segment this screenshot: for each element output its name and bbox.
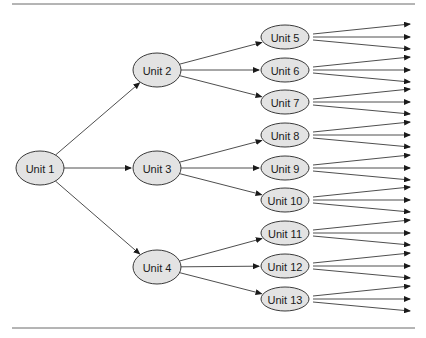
fanout-arrow-u13-0 bbox=[313, 286, 410, 296]
nodes-layer: Unit 1Unit 2Unit 3Unit 4Unit 5Unit 6Unit… bbox=[16, 25, 309, 311]
node-u1: Unit 1 bbox=[16, 151, 64, 185]
node-label: Unit 9 bbox=[271, 163, 300, 175]
fanout-arrows-layer bbox=[313, 24, 410, 311]
node-label: Unit 5 bbox=[271, 32, 300, 44]
edge-u1-u2 bbox=[55, 83, 139, 155]
edge-u3-u10 bbox=[180, 174, 262, 195]
node-u8: Unit 8 bbox=[261, 123, 309, 147]
node-label: Unit 10 bbox=[268, 195, 303, 207]
node-u11: Unit 11 bbox=[261, 221, 309, 245]
node-label: Unit 2 bbox=[143, 65, 172, 77]
edge-u2-u7 bbox=[180, 76, 262, 97]
fanout-arrow-u5-2 bbox=[313, 40, 410, 49]
fanout-arrow-u10-2 bbox=[313, 203, 410, 212]
node-label: Unit 8 bbox=[271, 130, 300, 142]
fanout-arrow-u11-0 bbox=[313, 220, 410, 230]
node-u3: Unit 3 bbox=[133, 151, 181, 185]
fanout-arrow-u13-2 bbox=[313, 302, 410, 311]
fanout-arrow-u7-2 bbox=[313, 105, 410, 114]
node-label: Unit 13 bbox=[268, 294, 303, 306]
fanout-arrow-u8-0 bbox=[313, 122, 410, 132]
fanout-arrow-u9-0 bbox=[313, 155, 410, 165]
node-u10: Unit 10 bbox=[261, 188, 309, 212]
node-u4: Unit 4 bbox=[133, 250, 181, 284]
edge-u4-u11 bbox=[179, 239, 261, 261]
node-u2: Unit 2 bbox=[133, 53, 181, 87]
edge-u1-u4 bbox=[55, 181, 139, 254]
fanout-arrow-u8-2 bbox=[313, 138, 410, 147]
edge-u2-u5 bbox=[180, 42, 262, 64]
node-label: Unit 4 bbox=[143, 262, 172, 274]
fanout-arrow-u12-0 bbox=[313, 253, 410, 263]
node-label: Unit 1 bbox=[26, 163, 55, 175]
node-u7: Unit 7 bbox=[261, 90, 309, 114]
node-u13: Unit 13 bbox=[261, 287, 309, 311]
node-label: Unit 6 bbox=[271, 65, 300, 77]
fanout-arrow-u9-2 bbox=[313, 171, 410, 180]
fanout-arrow-u7-0 bbox=[313, 89, 410, 99]
edge-u3-u8 bbox=[180, 140, 262, 162]
fanout-arrow-u5-0 bbox=[313, 24, 410, 34]
node-label: Unit 3 bbox=[143, 163, 172, 175]
node-label: Unit 7 bbox=[271, 97, 300, 109]
fanout-arrow-u11-2 bbox=[313, 236, 410, 245]
node-u6: Unit 6 bbox=[261, 58, 309, 82]
fanout-arrow-u12-2 bbox=[313, 269, 410, 278]
node-label: Unit 12 bbox=[268, 261, 303, 273]
node-u5: Unit 5 bbox=[261, 25, 309, 49]
edge-u4-u13 bbox=[180, 273, 262, 294]
edge-u4-u12 bbox=[181, 266, 259, 267]
fanout-arrow-u10-0 bbox=[313, 187, 410, 197]
node-u12: Unit 12 bbox=[261, 254, 309, 278]
fanout-arrow-u6-0 bbox=[313, 57, 410, 67]
tree-diagram: Unit 1Unit 2Unit 3Unit 4Unit 5Unit 6Unit… bbox=[0, 0, 426, 338]
fanout-arrow-u6-2 bbox=[313, 73, 410, 82]
node-u9: Unit 9 bbox=[261, 156, 309, 180]
node-label: Unit 11 bbox=[268, 228, 302, 240]
